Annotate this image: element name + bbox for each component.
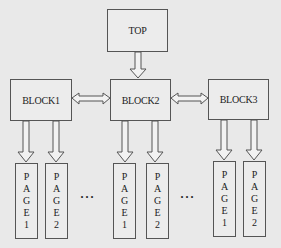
ellipsis-2: ··· [180, 190, 195, 205]
page-char: 2 [155, 219, 160, 231]
block2-page2: P A G E 2 [146, 163, 169, 239]
block1-page1: P A G E 1 [15, 163, 38, 239]
page-char: A [251, 181, 258, 193]
page-char: G [251, 193, 258, 205]
page-char: P [122, 171, 128, 183]
page-char: 1 [24, 219, 29, 231]
top-label: TOP [128, 25, 146, 36]
page-char: A [154, 183, 161, 195]
double-arrow-block1-block2 [72, 93, 110, 104]
page-char: G [53, 195, 60, 207]
page-char: A [121, 183, 128, 195]
block1-page2: P A G E 2 [45, 163, 68, 239]
page-char: E [221, 205, 227, 217]
page-char: G [154, 195, 161, 207]
block1-label: BLOCK1 [22, 95, 60, 106]
block2-label: BLOCK2 [122, 95, 160, 106]
double-arrow-block2-block3 [171, 93, 208, 104]
block3-label: BLOCK3 [220, 94, 258, 105]
page-char: G [221, 193, 228, 205]
page-char: 2 [252, 217, 257, 229]
page-char: E [23, 207, 29, 219]
page-char: A [53, 183, 60, 195]
block3-box: BLOCK3 [208, 79, 269, 120]
block3-page2: P A G E 2 [243, 161, 266, 237]
page-char: E [154, 207, 160, 219]
page-char: 1 [222, 217, 227, 229]
page-char: E [53, 207, 59, 219]
page-char: P [155, 171, 161, 183]
page-char: A [23, 183, 30, 195]
ellipsis-1: ··· [80, 190, 95, 205]
page-char: P [252, 169, 258, 181]
page-char: P [222, 169, 228, 181]
page-char: A [221, 181, 228, 193]
down-arrow-top-to-block2 [130, 52, 146, 78]
page-char: G [23, 195, 30, 207]
page-char: E [251, 205, 257, 217]
block2-page1: P A G E 1 [113, 163, 136, 239]
block1-box: BLOCK1 [10, 79, 72, 121]
block2-box: BLOCK2 [110, 79, 171, 121]
page-char: P [24, 171, 30, 183]
page-char: 2 [54, 219, 59, 231]
page-char: E [121, 207, 127, 219]
top-box: TOP [107, 9, 168, 52]
block3-page1: P A G E 1 [213, 161, 236, 237]
page-char: 1 [122, 219, 127, 231]
page-char: P [54, 171, 60, 183]
page-char: G [121, 195, 128, 207]
